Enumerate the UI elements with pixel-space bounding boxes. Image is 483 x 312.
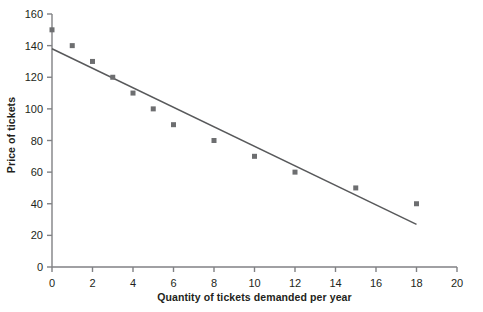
x-axis-title: Quantity of tickets demanded per year: [52, 291, 457, 303]
y-tick-label: 20: [31, 229, 43, 241]
x-tick-label: 14: [329, 277, 341, 289]
axes: [52, 14, 457, 267]
data-point-marker: [90, 59, 95, 64]
x-tick-label: 10: [248, 277, 260, 289]
y-tick-label: 40: [31, 198, 43, 210]
data-point-marker: [414, 201, 419, 206]
y-tick-label: 0: [37, 261, 43, 273]
data-point-marker: [212, 138, 217, 143]
x-tick-label: 4: [130, 277, 136, 289]
x-tick-label: 18: [410, 277, 422, 289]
x-tick-label: 6: [170, 277, 176, 289]
y-tick-label: 140: [25, 40, 43, 52]
y-tick-label: 60: [31, 166, 43, 178]
data-point-marker: [131, 91, 136, 96]
demand-curve-chart: Price of tickets 02040608010012014016002…: [0, 0, 483, 312]
axis-ticks: [47, 14, 457, 272]
data-point-marker: [50, 27, 55, 32]
data-point-marker: [293, 170, 298, 175]
y-tick-label: 120: [25, 71, 43, 83]
y-tick-label: 160: [25, 8, 43, 20]
x-tick-label: 12: [289, 277, 301, 289]
data-point-marker: [151, 106, 156, 111]
data-point-marker: [70, 43, 75, 48]
trend-line: [52, 49, 417, 225]
plot-area: 02040608010012014016002468101214161820: [0, 0, 483, 312]
y-tick-label: 100: [25, 103, 43, 115]
data-point-marker: [252, 154, 257, 159]
data-point-marker: [110, 75, 115, 80]
x-tick-label: 0: [49, 277, 55, 289]
data-point-marker: [353, 185, 358, 190]
axis-tick-labels: 02040608010012014016002468101214161820: [25, 8, 463, 289]
x-tick-label: 16: [370, 277, 382, 289]
data-point-marker: [171, 122, 176, 127]
y-tick-label: 80: [31, 135, 43, 147]
data-points: [50, 27, 420, 206]
x-tick-label: 2: [89, 277, 95, 289]
x-tick-label: 20: [451, 277, 463, 289]
fitted-demand-line: [52, 49, 417, 225]
x-tick-label: 8: [211, 277, 217, 289]
